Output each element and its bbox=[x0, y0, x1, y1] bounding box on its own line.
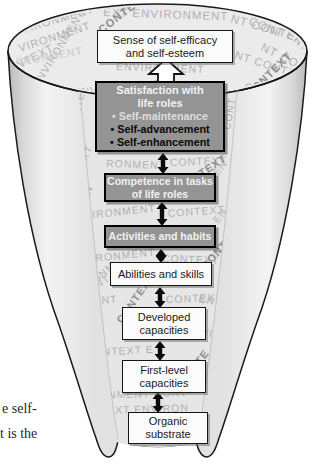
texture-word: RONMENT bbox=[106, 157, 166, 171]
box-sense-of-self-efficacy: Sense of self-efficacy and self-esteem bbox=[97, 30, 233, 63]
box-activities-and-habits: Activities and habits bbox=[104, 225, 216, 248]
bullet-list: • Self-maintenance • Self-advancement • … bbox=[110, 110, 210, 148]
bullet-item: • Self-maintenance bbox=[110, 110, 210, 123]
bullet-item: • Self-enhancement bbox=[110, 136, 210, 149]
box-text: capacities bbox=[140, 377, 189, 390]
bullet-item: • Self-advancement bbox=[110, 123, 210, 136]
box-text: of life roles bbox=[132, 188, 189, 201]
box-text: Competence in tasks bbox=[107, 175, 213, 188]
box-first-level-capacities: First-level capacities bbox=[122, 360, 206, 393]
box-text: Developed bbox=[138, 311, 191, 324]
box-organic-substrate: Organic substrate bbox=[128, 412, 208, 444]
box-title: life roles bbox=[137, 97, 182, 110]
box-text: Abilities and skills bbox=[118, 268, 204, 281]
box-abilities-and-skills: Abilities and skills bbox=[110, 262, 212, 286]
box-developed-capacities: Developed capacities bbox=[122, 307, 206, 340]
box-text: First-level bbox=[140, 364, 188, 377]
box-text: Sense of self-efficacy bbox=[113, 34, 217, 47]
box-text: Activities and habits bbox=[108, 230, 211, 243]
figure-canvas: EXT ENVIRONMENTCONTCONTEXTENVIRONMENTVIR… bbox=[0, 0, 315, 464]
box-satisfaction-with-life-roles: Satisfaction with life roles • Self-main… bbox=[95, 81, 225, 152]
box-text: substrate bbox=[145, 428, 190, 441]
box-text: Organic bbox=[149, 415, 188, 428]
page-text-fragment: t is the bbox=[0, 426, 37, 442]
page-text-fragment: e self- bbox=[2, 401, 37, 417]
box-text: and self-esteem bbox=[126, 47, 204, 60]
box-competence-in-tasks: Competence in tasks of life roles bbox=[104, 173, 216, 202]
box-title: Satisfaction with bbox=[116, 84, 203, 97]
box-text: capacities bbox=[140, 324, 189, 337]
